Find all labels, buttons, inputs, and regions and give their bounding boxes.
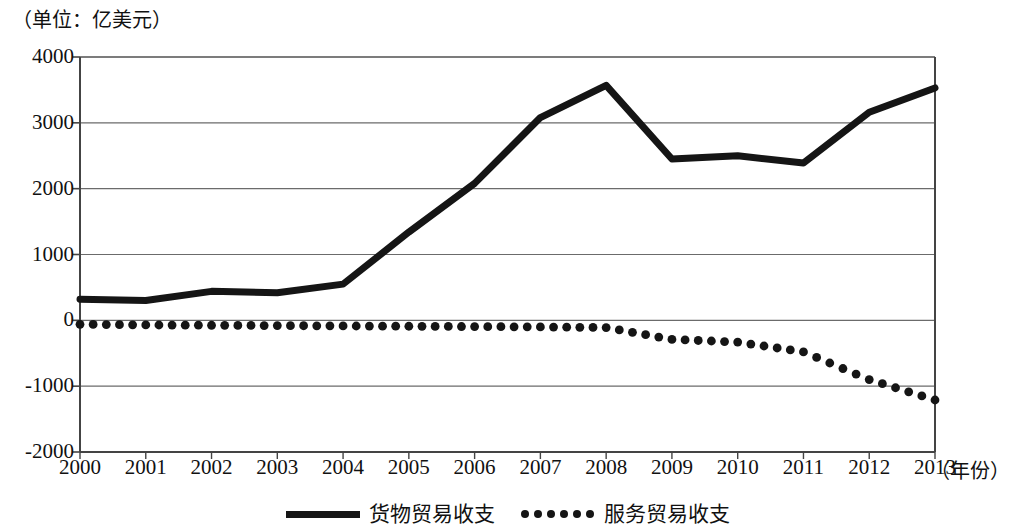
series-dots-services: [76, 320, 940, 405]
series-dot-services: [115, 320, 124, 329]
series-dot-services: [878, 379, 887, 388]
series-dot-services: [707, 337, 716, 346]
series-dot-services: [825, 359, 834, 368]
series-dot-services: [589, 323, 598, 332]
series-dot-services: [273, 321, 282, 330]
series-dot-services: [523, 322, 532, 331]
x-tick-label-2003: 2003: [245, 457, 309, 478]
x-tick-label-2011: 2011: [771, 457, 835, 478]
series-dot-services: [181, 321, 190, 330]
series-dot-services: [799, 348, 808, 357]
series-dot-services: [510, 322, 519, 331]
series-dot-services: [299, 321, 308, 330]
dotted-line-marker-icon: [521, 510, 595, 519]
y-tick-label-4000: 4000: [0, 46, 74, 67]
series-dot-services: [839, 364, 848, 373]
series-dot-services: [891, 383, 900, 392]
series-dot-services: [773, 344, 782, 353]
series-dot-services: [155, 321, 164, 330]
chart-plot-area: [0, 0, 1015, 530]
x-tick-label-2008: 2008: [574, 457, 638, 478]
series-dot-services: [720, 337, 729, 346]
y-tick-label--1000: -1000: [0, 375, 74, 396]
series-dot-services: [404, 322, 413, 331]
series-dot-services: [497, 322, 506, 331]
series-dot-services: [194, 321, 203, 330]
legend-item-services: 服务贸易收支: [521, 504, 730, 525]
series-dot-services: [457, 322, 466, 331]
series-dot-services: [326, 321, 335, 330]
series-dot-services: [760, 342, 769, 351]
series-dot-services: [141, 321, 150, 330]
x-tick-label-2001: 2001: [114, 457, 178, 478]
series-dot-services: [562, 323, 571, 332]
series-dot-services: [444, 322, 453, 331]
x-tick-label-2012: 2012: [837, 457, 901, 478]
series-dot-services: [220, 321, 229, 330]
series-dot-services: [418, 322, 427, 331]
chart-legend: 货物贸易收支 服务贸易收支: [0, 498, 1015, 530]
series-dot-services: [536, 323, 545, 332]
y-tick-label-1000: 1000: [0, 244, 74, 265]
x-tick-label-2010: 2010: [706, 457, 770, 478]
x-tick-label-2009: 2009: [640, 457, 704, 478]
series-dot-services: [654, 333, 663, 342]
series-dot-services: [365, 322, 374, 331]
y-axis-tick-labels: 40003000200010000-1000-2000: [0, 0, 74, 530]
series-dot-services: [746, 340, 755, 349]
series-dot-services: [247, 321, 256, 330]
x-tick-label-2002: 2002: [180, 457, 244, 478]
series-dot-services: [641, 330, 650, 339]
series-dot-services: [339, 322, 348, 331]
series-dot-services: [733, 338, 742, 347]
series-dot-services: [312, 321, 321, 330]
trade-balance-line-chart: （单位：亿美元） 40003000200010000-1000-2000 （年份…: [0, 0, 1015, 530]
legend-item-goods: 货物贸易收支: [286, 504, 495, 525]
series-dot-services: [378, 322, 387, 331]
series-dot-services: [917, 392, 926, 401]
series-dot-services: [286, 321, 295, 330]
series-dot-services: [812, 353, 821, 362]
series-dot-services: [865, 375, 874, 384]
solid-line-marker-icon: [286, 511, 360, 518]
series-dot-services: [76, 320, 85, 329]
x-tick-label-2013: 2013: [903, 457, 967, 478]
y-tick-label-0: 0: [0, 309, 74, 330]
series-dot-services: [681, 336, 690, 345]
series-dot-services: [391, 322, 400, 331]
x-tick-label-2005: 2005: [377, 457, 441, 478]
y-tick-label-2000: 2000: [0, 178, 74, 199]
series-dot-services: [168, 321, 177, 330]
series-dot-services: [904, 387, 913, 396]
series-dot-services: [694, 336, 703, 345]
legend-label-services: 服务贸易收支: [604, 504, 730, 525]
series-dot-services: [615, 326, 624, 335]
series-dot-services: [470, 322, 479, 331]
series-dot-services: [786, 346, 795, 355]
series-dot-services: [575, 323, 584, 332]
series-dot-services: [931, 396, 940, 405]
y-tick-label-3000: 3000: [0, 112, 74, 133]
series-dot-services: [852, 370, 861, 379]
x-tick-label-2000: 2000: [48, 457, 112, 478]
x-tick-label-2007: 2007: [508, 457, 572, 478]
series-dot-services: [352, 322, 361, 331]
series-dot-services: [89, 320, 98, 329]
series-dot-services: [233, 321, 242, 330]
series-dot-services: [602, 323, 611, 332]
series-dot-services: [431, 322, 440, 331]
series-dot-services: [102, 320, 111, 329]
series-dot-services: [549, 323, 558, 332]
series-line-goods: [80, 85, 935, 300]
series-dot-services: [260, 321, 269, 330]
legend-label-goods: 货物贸易收支: [369, 504, 495, 525]
series-dot-services: [128, 320, 137, 329]
series-dot-services: [483, 322, 492, 331]
series-dot-services: [668, 335, 677, 344]
x-tick-label-2004: 2004: [311, 457, 375, 478]
series-dot-services: [628, 328, 637, 337]
series-dot-services: [207, 321, 216, 330]
x-tick-label-2006: 2006: [443, 457, 507, 478]
